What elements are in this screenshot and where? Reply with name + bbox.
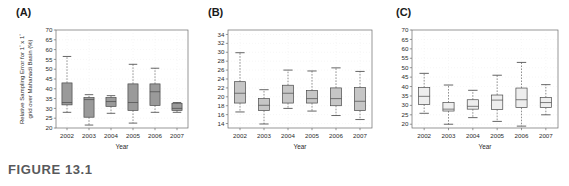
y-axis-tick-label: 28 — [218, 57, 225, 64]
svg-text:Relative Sampling Error for 1°: Relative Sampling Error for 1° x 1° — [18, 34, 25, 124]
y-axis-tick-label: 22 — [218, 84, 225, 91]
x-axis-tick-label: 2005 — [490, 132, 504, 139]
y-axis-tick-label: 35 — [402, 92, 409, 99]
panel-c-plot: 2025303540455055606570200220032004200520… — [386, 0, 566, 156]
svg-text:grid over Mahanadi Basin (%): grid over Mahanadi Basin (%) — [27, 39, 33, 118]
y-axis-tick-label: 45 — [46, 75, 53, 82]
x-axis-tick-label: 2003 — [82, 132, 96, 139]
y-axis-tick-label: 30 — [46, 105, 53, 112]
x-axis-tick-label: 2004 — [466, 132, 480, 139]
x-axis-tick-label: 2006 — [148, 132, 162, 139]
panel-a: (A) 202530354045505560657020022003200420… — [8, 0, 194, 156]
y-axis-tick-label: 26 — [218, 66, 225, 73]
x-axis-tick-label: 2002 — [417, 132, 431, 139]
y-axis-tick-label: 70 — [46, 26, 53, 33]
y-axis-tick-label: 40 — [46, 85, 53, 92]
x-axis-tick-label: 2007 — [353, 132, 367, 139]
y-axis-tick-label: 30 — [218, 48, 225, 55]
y-axis-tick-label: 32 — [218, 39, 225, 46]
x-axis-tick-label: 2003 — [442, 132, 456, 139]
panel-b-plot: 1416182022242628303234200220032004200520… — [198, 0, 380, 156]
x-axis-tick-label: 2007 — [170, 132, 184, 139]
x-axis-tick-label: 2005 — [126, 132, 140, 139]
x-axis-tick-label: 2004 — [281, 132, 295, 139]
x-axis-tick-label: 2004 — [104, 132, 118, 139]
y-axis-tick-label: 50 — [402, 64, 409, 71]
x-axis-tick-label: 2007 — [539, 132, 553, 139]
figure-13-1: (A) 202530354045505560657020022003200420… — [0, 0, 569, 186]
y-axis-tick-label: 35 — [46, 95, 53, 102]
y-axis-tick-label: 20 — [218, 93, 225, 100]
x-axis-title: Year — [479, 143, 493, 150]
y-axis-tick-label: 65 — [46, 36, 53, 43]
y-axis-title: Relative Sampling Error for 1° x 1°grid … — [18, 34, 33, 124]
figure-caption: FIGURE 13.1 — [8, 162, 93, 177]
plot-area — [412, 30, 558, 128]
y-axis-tick-label: 20 — [402, 120, 409, 127]
y-axis-tick-label: 55 — [46, 56, 53, 63]
panel-b: (B) 141618202224262830323420022003200420… — [198, 0, 380, 156]
y-axis-tick-label: 60 — [402, 45, 409, 52]
y-axis-tick-label: 65 — [402, 36, 409, 43]
y-axis-tick-label: 60 — [46, 46, 53, 53]
y-axis-tick-label: 70 — [402, 26, 409, 33]
panel-container: (A) 202530354045505560657020022003200420… — [0, 0, 569, 156]
y-axis-tick-label: 24 — [218, 75, 225, 82]
x-axis-tick-label: 2006 — [515, 132, 529, 139]
y-axis-tick-label: 25 — [46, 114, 53, 121]
y-axis-tick-label: 30 — [402, 101, 409, 108]
x-axis-tick-label: 2005 — [305, 132, 319, 139]
y-axis-tick-label: 55 — [402, 54, 409, 61]
y-axis-tick-label: 20 — [46, 124, 53, 131]
x-axis-title: Year — [294, 143, 308, 150]
x-axis-title: Year — [116, 143, 130, 150]
y-axis-tick-label: 34 — [218, 31, 225, 38]
x-axis-tick-label: 2006 — [329, 132, 343, 139]
x-axis-tick-label: 2002 — [60, 132, 74, 139]
y-axis-tick-label: 45 — [402, 73, 409, 80]
y-axis-tick-label: 14 — [218, 120, 225, 127]
y-axis-tick-label: 50 — [46, 65, 53, 72]
y-axis-tick-label: 16 — [218, 111, 225, 118]
y-axis-tick-label: 18 — [218, 102, 225, 109]
panel-a-plot: 2025303540455055606570200220032004200520… — [8, 0, 194, 156]
x-axis-tick-label: 2003 — [257, 132, 271, 139]
x-axis-tick-label: 2002 — [233, 132, 247, 139]
y-axis-tick-label: 25 — [402, 111, 409, 118]
panel-c: (C) 202530354045505560657020022003200420… — [386, 0, 566, 156]
y-axis-tick-label: 40 — [402, 83, 409, 90]
